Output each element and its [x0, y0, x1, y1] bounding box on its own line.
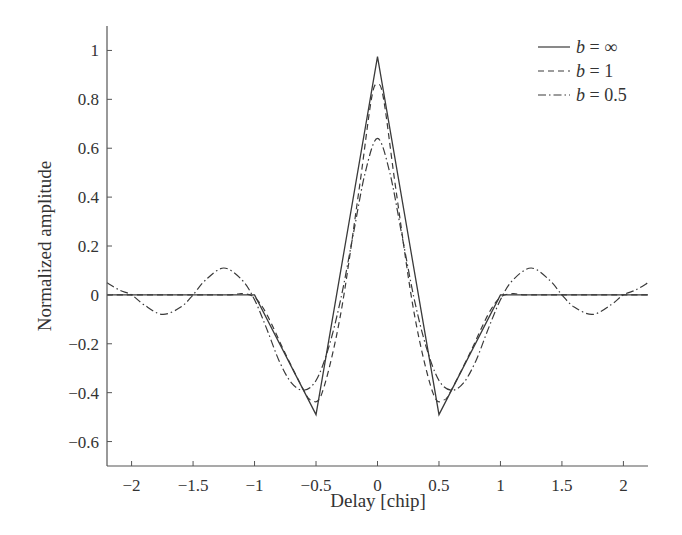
x-tick-label: 0.5 [428, 476, 449, 495]
legend: b = ∞b = 1b = 0.5 [538, 37, 627, 105]
series-line-dashed [107, 84, 648, 401]
x-tick-label: −0.5 [301, 476, 332, 495]
x-tick-label: 1 [496, 476, 505, 495]
series-line-dashdot [107, 138, 648, 390]
axes [107, 26, 648, 466]
y-tick-label: 0.2 [78, 237, 99, 256]
x-axis-label: Delay [chip] [330, 490, 425, 511]
y-tick-label: 0.8 [78, 90, 99, 109]
x-tick-label: −2 [123, 476, 141, 495]
y-tick-label: −0.4 [68, 384, 99, 403]
y-tick-label: −0.2 [68, 335, 99, 354]
y-tick-label: 1 [91, 41, 100, 60]
y-tick-label: −0.6 [68, 433, 99, 452]
x-tick-label: −1.5 [178, 476, 209, 495]
series-line-solid [107, 57, 648, 415]
y-axis-label: Normalized amplitude [34, 161, 55, 331]
y-tick-label: 0.4 [78, 188, 100, 207]
x-tick-label: −1 [245, 476, 263, 495]
legend-label: b = ∞ [576, 37, 617, 57]
legend-label: b = 0.5 [576, 85, 627, 105]
x-tick-label: 2 [619, 476, 628, 495]
chart-canvas: −2−1.5−1−0.500.511.52 10.80.60.40.20−0.2… [0, 0, 682, 535]
x-tick-label: 1.5 [551, 476, 572, 495]
legend-label: b = 1 [576, 61, 613, 81]
y-tick-label: 0.6 [78, 139, 99, 158]
y-tick-label: 0 [91, 286, 100, 305]
y-ticks: 10.80.60.40.20−0.2−0.4−0.6 [68, 41, 112, 451]
plot-lines [107, 57, 648, 415]
